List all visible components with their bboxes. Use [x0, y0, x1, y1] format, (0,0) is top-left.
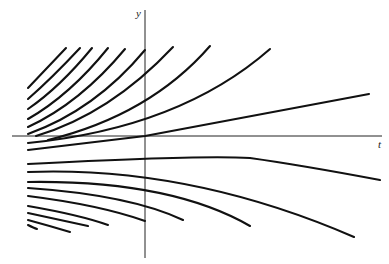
curve-lower-9 — [28, 225, 37, 229]
curve-upper-5 — [28, 49, 125, 127]
curve-upper-4 — [28, 48, 108, 119]
y-axis-label: y — [136, 7, 141, 19]
plot-area — [0, 0, 389, 264]
curve-center-line — [28, 94, 369, 150]
diagram-canvas: y t — [0, 0, 389, 264]
solution-curves — [28, 46, 380, 237]
curve-upper-2 — [28, 48, 80, 99]
curve-upper-8 — [48, 46, 210, 140]
t-axis-label: t — [378, 138, 381, 150]
curve-lower-7 — [28, 213, 88, 226]
curve-lower-1 — [28, 157, 380, 180]
curve-upper-6 — [28, 50, 145, 134]
